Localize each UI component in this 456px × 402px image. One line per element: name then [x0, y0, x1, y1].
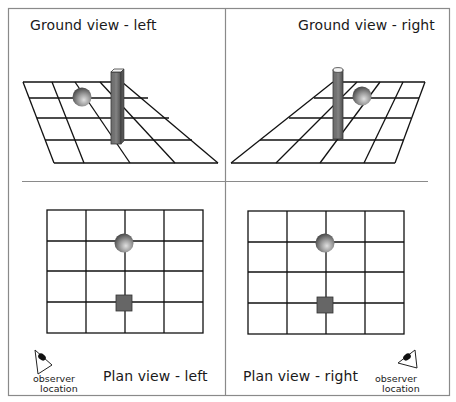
diagram-canvas	[0, 0, 456, 402]
sphere	[73, 88, 92, 107]
pillar	[333, 68, 343, 139]
ground-view-left-title: Ground view - left	[30, 18, 157, 32]
pillar	[111, 69, 124, 144]
ground-view-left-scene	[23, 69, 218, 163]
frame	[9, 9, 450, 396]
pillar-square	[317, 297, 333, 313]
plan-view-left-title: Plan view - left	[103, 369, 208, 383]
sphere	[115, 234, 134, 253]
perspective-grid-right	[231, 82, 425, 163]
outer-border	[9, 9, 450, 396]
eye-icon	[35, 350, 52, 374]
plan-view-right-title: Plan view - right	[243, 369, 358, 383]
plan-grid-left	[47, 210, 203, 333]
observer-label-right-line2: location	[382, 384, 420, 394]
sphere	[353, 87, 372, 106]
sphere	[316, 234, 335, 253]
plan-view-left-scene	[35, 210, 203, 374]
eye-icon	[398, 350, 417, 368]
ground-view-right-title: Ground view - right	[298, 18, 435, 32]
plan-grid-right	[248, 211, 404, 334]
ground-view-right-scene	[231, 68, 425, 163]
perspective-diagram: Ground view - left Ground view - right P…	[0, 0, 456, 402]
plan-view-right-scene	[248, 211, 417, 368]
observer-label-left-line2: location	[40, 384, 78, 394]
pillar-square	[116, 295, 132, 311]
